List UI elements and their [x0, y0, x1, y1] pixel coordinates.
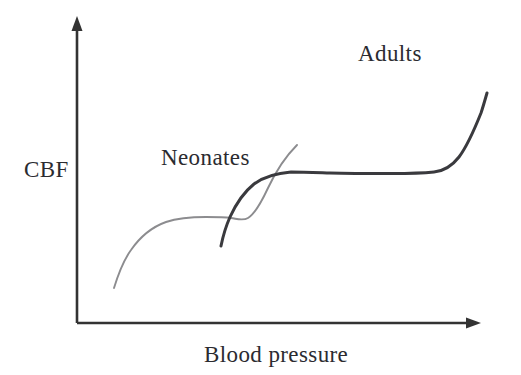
cbf-autoregulation-figure: CBF Blood pressure Neonates Adults	[0, 0, 521, 375]
annotation-adults: Adults	[358, 42, 422, 65]
curve-adults	[221, 93, 487, 246]
chart-canvas	[0, 0, 521, 375]
y-axis-arrow-icon	[72, 16, 83, 31]
x-axis-label: Blood pressure	[204, 343, 348, 366]
x-axis-arrow-icon	[466, 318, 481, 329]
annotation-neonates: Neonates	[161, 146, 250, 169]
y-axis-label: CBF	[24, 158, 69, 181]
